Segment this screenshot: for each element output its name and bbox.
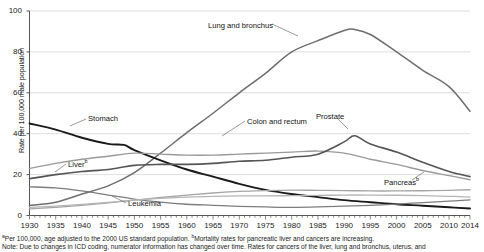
- gridlines: [30, 11, 471, 175]
- series-label-prostate: Prostate: [316, 112, 344, 121]
- x-axis-ticks: [30, 216, 471, 220]
- y-tick-60: 60: [0, 88, 22, 97]
- series-label-colon-and-rectum: Colon and rectum: [247, 117, 307, 126]
- y-tick-40: 40: [0, 129, 22, 138]
- leader-line-1: [70, 119, 86, 126]
- footnote-text-b: Mortality rates for pancreatic liver and…: [194, 235, 374, 242]
- series-label-leukemia: Leukemia: [128, 199, 161, 208]
- footnote-text-a: Per 100,000, age adjusted to the 2000 US…: [5, 235, 192, 242]
- leader-line-4: [55, 164, 66, 172]
- y-tick-80: 80: [0, 47, 22, 56]
- y-tick-0: 0: [0, 211, 22, 220]
- series-label-lung-and-bronchus: Lung and bronchus: [208, 21, 273, 30]
- y-tick-20: 20: [0, 170, 22, 179]
- plot-area: Rate per 100,000 male population 0204060…: [0, 0, 476, 222]
- series-label-stomach: Stomach: [88, 114, 118, 123]
- y-tick-100: 100: [0, 6, 22, 15]
- chart-svg: [0, 0, 476, 222]
- footnote-line-1: aPer 100,000, age adjusted to the 2000 U…: [2, 232, 476, 243]
- series-label-liver: Liverb: [68, 158, 87, 169]
- series-label-pancreas: Pancreasb: [384, 176, 419, 187]
- footnote-line-2: Note: Due to changes in ICD coding, nume…: [2, 243, 476, 251]
- footnotes: aPer 100,000, age adjusted to the 2000 U…: [2, 232, 476, 252]
- x-tick-2014: 2014: [453, 221, 484, 230]
- leader-line-0: [272, 24, 298, 36]
